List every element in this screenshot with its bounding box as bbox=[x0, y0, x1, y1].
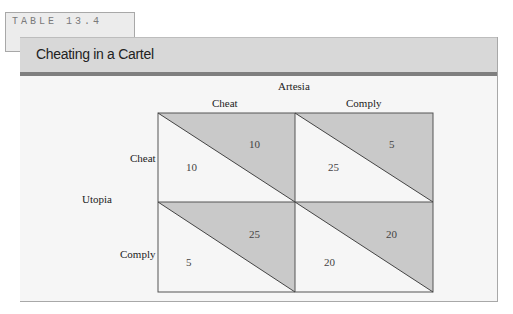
row-header-comply: Comply bbox=[120, 248, 155, 260]
column-header-comply: Comply bbox=[346, 97, 381, 109]
column-player-label: Artesia bbox=[278, 80, 310, 92]
payoff-comply-cheat-artesia: 25 bbox=[249, 228, 260, 240]
payoff-comply-comply-artesia: 20 bbox=[386, 228, 397, 240]
payoff-matrix-grid bbox=[0, 0, 513, 314]
payoff-comply-comply-utopia: 20 bbox=[324, 256, 335, 268]
column-header-cheat: Cheat bbox=[212, 97, 238, 109]
payoff-cheat-cheat-artesia: 10 bbox=[249, 138, 260, 150]
row-player-label: Utopia bbox=[82, 193, 112, 205]
payoff-cheat-comply-utopia: 25 bbox=[328, 161, 339, 173]
payoff-cheat-comply-artesia: 5 bbox=[389, 138, 395, 150]
payoff-comply-cheat-utopia: 5 bbox=[186, 256, 192, 268]
payoff-cheat-cheat-utopia: 10 bbox=[186, 161, 197, 173]
row-header-cheat: Cheat bbox=[130, 152, 156, 164]
